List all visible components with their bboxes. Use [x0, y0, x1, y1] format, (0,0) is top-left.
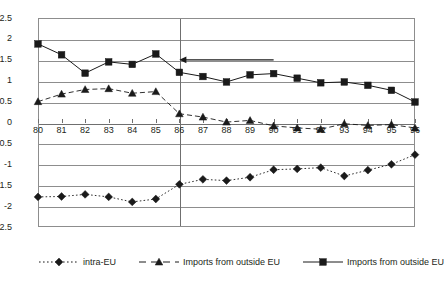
- data-point-marker: [270, 70, 277, 77]
- data-point-marker: [58, 193, 66, 201]
- data-point-marker: [199, 175, 207, 183]
- data-point-marker: [247, 72, 254, 79]
- series-line: [38, 44, 415, 102]
- data-point-marker: [200, 73, 207, 80]
- data-point-marker: [199, 113, 207, 120]
- data-point-marker: [152, 88, 160, 95]
- data-point-marker: [388, 160, 396, 168]
- series-square: [35, 41, 419, 106]
- data-point-marker: [246, 173, 254, 181]
- data-point-marker: [105, 59, 112, 66]
- data-point-marker: [365, 82, 372, 89]
- legend-item-2[interactable]: Imports from outside EU: [302, 256, 444, 268]
- data-point-marker: [341, 120, 349, 127]
- data-point-marker: [340, 172, 348, 180]
- data-point-marker: [35, 41, 42, 48]
- data-point-marker: [388, 87, 395, 94]
- data-point-marker: [105, 193, 113, 201]
- data-point-marker: [128, 198, 136, 206]
- data-point-marker: [388, 121, 396, 128]
- data-point-marker: [317, 164, 325, 172]
- data-point-marker: [223, 177, 231, 185]
- data-point-marker: [412, 99, 419, 106]
- data-point-marker: [411, 151, 419, 159]
- data-point-marker: [34, 193, 42, 201]
- data-point-marker: [129, 61, 136, 68]
- data-point-marker: [105, 85, 113, 92]
- data-point-marker: [58, 51, 65, 58]
- data-point-marker: [152, 195, 160, 203]
- legend-label: Imports from outside EU: [183, 257, 280, 267]
- data-point-marker: [293, 165, 301, 173]
- data-point-marker: [176, 69, 183, 76]
- data-point-marker: [153, 51, 160, 58]
- legend-square-icon: [302, 256, 344, 268]
- legend-item-0[interactable]: intra-EU: [38, 256, 116, 268]
- series-diamond: [34, 151, 419, 206]
- legend-item-1[interactable]: Imports from outside EU: [138, 256, 280, 268]
- data-point-marker: [175, 180, 183, 188]
- series-triangle: [34, 85, 419, 132]
- data-point-marker: [246, 117, 254, 124]
- data-point-marker: [82, 70, 89, 77]
- data-point-marker: [317, 79, 324, 86]
- legend-diamond-icon: [38, 256, 80, 268]
- data-point-marker: [341, 79, 348, 86]
- annotation-arrow: [179, 56, 273, 63]
- legend-label: intra-EU: [83, 257, 116, 267]
- data-point-marker: [364, 166, 372, 174]
- arrow-head: [179, 56, 186, 63]
- data-point-marker: [270, 122, 278, 129]
- data-point-marker: [81, 190, 89, 198]
- data-point-marker: [294, 75, 301, 82]
- legend-triangle-icon: [138, 256, 180, 268]
- data-point-marker: [270, 166, 278, 174]
- chart-legend: intra-EUImports from outside EUImports f…: [38, 252, 418, 272]
- legend-label: Imports from outside EU: [347, 257, 444, 267]
- data-point-marker: [223, 79, 230, 86]
